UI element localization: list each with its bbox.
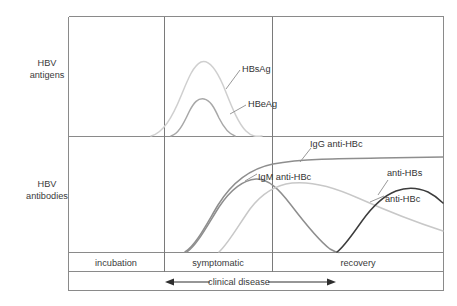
- phase-label-symptomatic: symptomatic: [192, 258, 244, 268]
- label-anti-hbs: anti-HBs: [387, 168, 423, 178]
- phase-label-incubation: incubation: [95, 258, 137, 268]
- label-hbeag: HBeAg: [248, 99, 277, 109]
- timeline-label: clinical disease: [208, 277, 270, 287]
- label-anti-hbc: anti-HBc: [385, 194, 421, 204]
- row-label-antigens-line1: HBV: [38, 58, 58, 68]
- row-label-antibodies-line1: HBV: [38, 179, 58, 189]
- label-igm-anti-hbc: IgM anti-HBc: [258, 172, 312, 182]
- phase-label-recovery: recovery: [340, 258, 376, 268]
- label-hbsag: HBsAg: [242, 64, 271, 74]
- row-label-antigens-line2: antigens: [30, 70, 65, 80]
- hbv-serology-figure: HBV antigens HBV antibodies HBsAg HBeAg: [0, 0, 457, 306]
- row-label-antibodies-line2: antibodies: [26, 191, 68, 201]
- figure-svg: HBV antigens HBV antibodies HBsAg HBeAg: [0, 0, 457, 306]
- label-igg-anti-hbc: IgG anti-HBc: [310, 139, 363, 149]
